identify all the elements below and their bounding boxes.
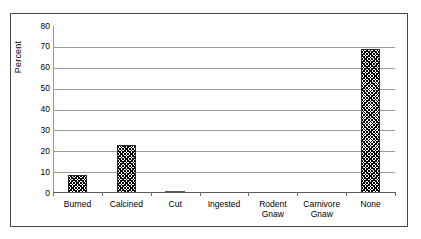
x-axis-tick-mark (395, 192, 396, 196)
x-axis-tick-mark (297, 192, 298, 196)
x-axis-tick-mark (53, 192, 54, 196)
x-axis-tick-mark (200, 192, 201, 196)
x-tick-label: Burned (53, 199, 102, 209)
x-axis-tick-mark (346, 192, 347, 196)
x-tick-label: Calcined (102, 199, 151, 209)
x-axis-tick-mark (151, 192, 152, 196)
x-axis-tick-labels: BurnedCalcinedCutIngestedRodent GnawCarn… (0, 0, 421, 239)
x-tick-label: None (346, 199, 395, 209)
x-tick-label: Carnivore Gnaw (297, 199, 346, 219)
x-tick-label: Ingested (200, 199, 249, 209)
x-tick-label: Rodent Gnaw (248, 199, 297, 219)
x-axis-tick-mark (248, 192, 249, 196)
x-tick-label: Cut (151, 199, 200, 209)
chart-figure: Percent 01020304050607080 BurnedCalcined… (0, 0, 421, 239)
x-axis-tick-mark (102, 192, 103, 196)
